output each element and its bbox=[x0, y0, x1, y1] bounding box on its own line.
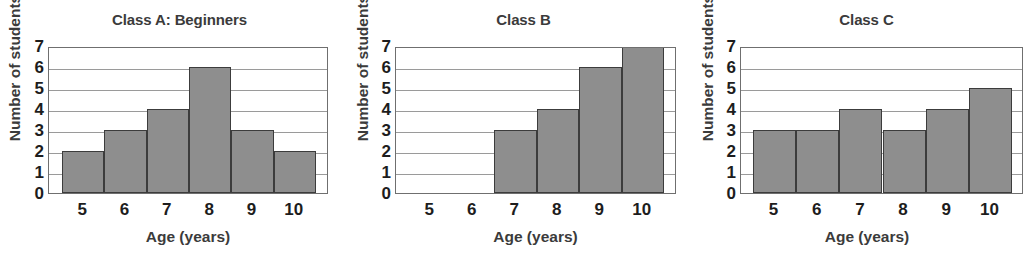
bar bbox=[231, 130, 273, 193]
x-tick-label: 7 bbox=[493, 199, 536, 221]
x-tick-label: 5 bbox=[61, 199, 103, 221]
y-tick-label: 1 bbox=[26, 164, 44, 182]
x-tick-label: 8 bbox=[188, 199, 230, 221]
chart-class-c: Class C Number of students 01234567 5678… bbox=[682, 0, 1023, 273]
chart-class-a: Class A: Beginners Number of students 01… bbox=[0, 0, 341, 273]
y-axis-label: Number of students bbox=[6, 0, 28, 158]
x-tick-label: 10 bbox=[621, 199, 664, 221]
y-axis-ticks: 01234567 bbox=[373, 38, 391, 203]
chart-title: Class C bbox=[682, 11, 1023, 28]
bar bbox=[753, 130, 796, 193]
x-tick-label: 9 bbox=[230, 199, 272, 221]
y-tick-label: 7 bbox=[718, 38, 736, 56]
y-tick-label: 0 bbox=[373, 185, 391, 203]
bar bbox=[537, 109, 580, 193]
y-tick-label: 4 bbox=[718, 101, 736, 119]
y-tick-label: 5 bbox=[718, 80, 736, 98]
x-axis-label: Age (years) bbox=[732, 228, 1002, 246]
chart-title: Class B bbox=[341, 11, 682, 28]
x-axis-label: Age (years) bbox=[48, 228, 328, 246]
bar bbox=[622, 47, 665, 193]
y-tick-label: 4 bbox=[373, 101, 391, 119]
x-tick-label: 6 bbox=[795, 199, 838, 221]
plot-area bbox=[395, 47, 676, 194]
bar bbox=[926, 109, 969, 193]
y-tick-label: 3 bbox=[718, 122, 736, 140]
y-tick-label: 6 bbox=[26, 59, 44, 77]
x-tick-label: 9 bbox=[578, 199, 621, 221]
y-tick-label: 1 bbox=[718, 164, 736, 182]
bar bbox=[189, 67, 231, 193]
bar bbox=[494, 130, 537, 193]
y-tick-label: 5 bbox=[373, 80, 391, 98]
y-tick-label: 7 bbox=[26, 38, 44, 56]
chart-class-b: Class B Number of students 01234567 5678… bbox=[341, 0, 682, 273]
bar bbox=[883, 130, 926, 193]
x-axis-label: Age (years) bbox=[395, 228, 676, 246]
y-axis-ticks: 01234567 bbox=[26, 38, 44, 203]
x-axis-ticks: 5678910 bbox=[740, 199, 1023, 221]
chart-title: Class A: Beginners bbox=[0, 11, 341, 28]
x-tick-label: 10 bbox=[968, 199, 1011, 221]
bar bbox=[969, 88, 1012, 193]
x-tick-label: 5 bbox=[408, 199, 451, 221]
y-tick-label: 7 bbox=[373, 38, 391, 56]
x-tick-label: 6 bbox=[103, 199, 145, 221]
x-tick-label: 10 bbox=[273, 199, 315, 221]
bottom-edge-margin bbox=[0, 267, 1023, 273]
bar bbox=[274, 151, 316, 193]
bar bbox=[104, 130, 146, 193]
x-tick-label: 6 bbox=[451, 199, 494, 221]
y-tick-label: 2 bbox=[373, 143, 391, 161]
x-tick-label: 7 bbox=[838, 199, 881, 221]
bar-series bbox=[741, 48, 1022, 193]
plot-area bbox=[48, 47, 328, 194]
x-tick-label: 7 bbox=[146, 199, 188, 221]
y-tick-label: 6 bbox=[718, 59, 736, 77]
bar bbox=[839, 109, 882, 193]
y-axis-ticks: 01234567 bbox=[718, 38, 736, 203]
bar bbox=[796, 130, 839, 193]
y-tick-label: 5 bbox=[26, 80, 44, 98]
y-tick-label: 2 bbox=[718, 143, 736, 161]
y-tick-label: 4 bbox=[26, 101, 44, 119]
y-tick-label: 3 bbox=[26, 122, 44, 140]
bar bbox=[579, 67, 622, 193]
bar-series bbox=[396, 48, 675, 193]
bar bbox=[62, 151, 104, 193]
x-axis-ticks: 5678910 bbox=[395, 199, 676, 221]
bar bbox=[147, 109, 189, 193]
x-tick-label: 9 bbox=[925, 199, 968, 221]
y-tick-label: 0 bbox=[718, 185, 736, 203]
x-tick-label: 8 bbox=[882, 199, 925, 221]
x-tick-label: 8 bbox=[536, 199, 579, 221]
x-axis-ticks: 5678910 bbox=[48, 199, 328, 221]
plot-area bbox=[740, 47, 1023, 194]
y-tick-label: 2 bbox=[26, 143, 44, 161]
y-tick-label: 6 bbox=[373, 59, 391, 77]
bar-series bbox=[49, 48, 327, 193]
histogram-figure: Class A: Beginners Number of students 01… bbox=[0, 0, 1023, 273]
x-tick-label: 5 bbox=[752, 199, 795, 221]
y-tick-label: 3 bbox=[373, 122, 391, 140]
y-tick-label: 1 bbox=[373, 164, 391, 182]
y-tick-label: 0 bbox=[26, 185, 44, 203]
